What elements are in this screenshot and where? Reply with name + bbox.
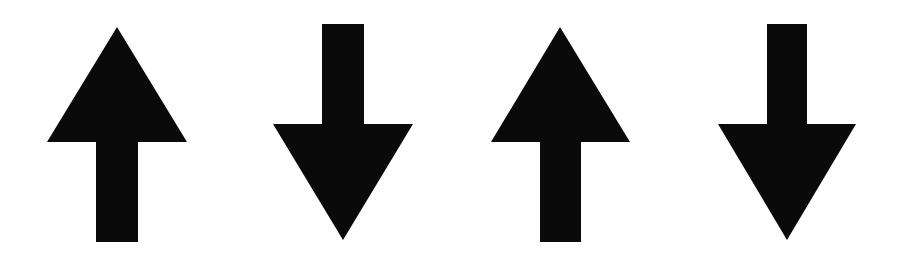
arrow-up-icon xyxy=(47,0,187,261)
arrow-sequence xyxy=(0,0,899,261)
arrow-down-icon xyxy=(273,0,413,261)
arrow-up-icon xyxy=(491,0,631,261)
arrow-down-icon xyxy=(718,0,857,261)
